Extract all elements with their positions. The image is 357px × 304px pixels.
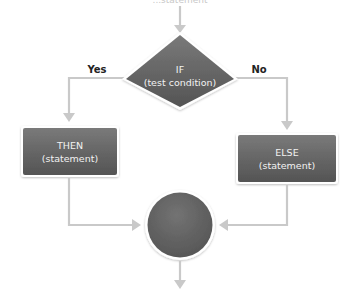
- flowchart-diagram: ...statement Yes No IF (test condition) …: [0, 0, 357, 304]
- no-label: No: [251, 64, 266, 75]
- no-connector: [235, 78, 293, 130]
- else-node: [236, 133, 338, 184]
- else-line1: ELSE: [275, 147, 298, 158]
- then-merge-connector: [69, 178, 141, 231]
- entry-arrow: [174, 6, 186, 33]
- else-line2: (statement): [259, 160, 315, 171]
- top-label: ...statement: [153, 0, 208, 5]
- decision-line2: (test condition): [144, 77, 217, 88]
- exit-arrow: [174, 261, 186, 289]
- then-line1: THEN: [56, 140, 83, 151]
- else-merge-connector: [219, 185, 287, 231]
- yes-label: Yes: [86, 64, 106, 75]
- decision-line1: IF: [176, 64, 184, 75]
- then-line2: (statement): [42, 153, 98, 164]
- yes-connector: [63, 78, 126, 122]
- merge-node: [145, 190, 215, 260]
- then-node: [21, 126, 119, 177]
